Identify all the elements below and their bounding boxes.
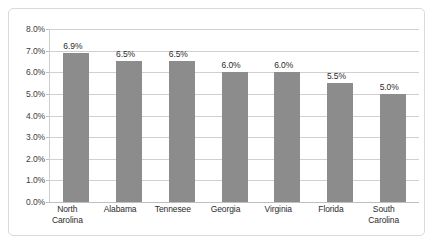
y-tick-mark — [46, 116, 49, 117]
y-tick-label: 4.0% — [26, 111, 45, 121]
bar[interactable]: 5.0% — [380, 94, 406, 202]
x-category-label-line: Alabama — [94, 204, 147, 215]
bar-value-label: 5.5% — [327, 71, 346, 81]
bar[interactable]: 5.5% — [327, 83, 353, 202]
gridline — [49, 202, 419, 203]
x-category-label: NorthCarolina — [41, 204, 94, 226]
bar-slot: 6.0% — [208, 29, 261, 202]
bar-value-label: 5.0% — [380, 82, 399, 92]
y-tick-label: 5.0% — [26, 89, 45, 99]
y-tick-label: 3.0% — [26, 132, 45, 142]
bar-value-label: 6.0% — [222, 60, 241, 70]
x-axis-category-labels: NorthCarolinaAlabamaTenneseeGeorgiaVirgi… — [41, 204, 410, 226]
x-category-label-line: Georgia — [199, 204, 252, 215]
y-tick-mark — [46, 202, 49, 203]
bar-slot: 6.5% — [103, 29, 156, 202]
y-tick-mark — [46, 180, 49, 181]
plot-area: 8.0%7.0%6.0%5.0%4.0%3.0%2.0%1.0%0.0% 6.9… — [49, 29, 419, 202]
x-category-label: Virginia — [252, 204, 305, 226]
bar-slot: 6.5% — [155, 29, 208, 202]
bar-value-label: 6.5% — [169, 49, 188, 59]
bar[interactable]: 6.0% — [222, 72, 248, 202]
x-category-label-line: Tennesee — [146, 204, 199, 215]
x-category-label: Georgia — [199, 204, 252, 226]
y-tick-mark — [46, 29, 49, 30]
bar-value-label: 6.9% — [63, 41, 82, 51]
x-category-label: Florida — [305, 204, 358, 226]
bar-value-label: 6.5% — [116, 49, 135, 59]
x-category-label-line: Florida — [305, 204, 358, 215]
y-tick-mark — [46, 51, 49, 52]
bar-series: 6.9%6.5%6.5%6.0%6.0%5.5%5.0% — [50, 29, 419, 202]
x-category-label: SouthCarolina — [357, 204, 410, 226]
chart-frame: 8.0%7.0%6.0%5.0%4.0%3.0%2.0%1.0%0.0% 6.9… — [8, 8, 425, 236]
x-category-label: Alabama — [94, 204, 147, 226]
y-tick-mark — [46, 94, 49, 95]
x-category-label-line: Carolina — [357, 215, 410, 226]
bar-value-label: 6.0% — [274, 60, 293, 70]
x-category-label-line: Carolina — [41, 215, 94, 226]
bar-slot: 5.5% — [314, 29, 367, 202]
x-category-label-line: Virginia — [252, 204, 305, 215]
bar-slot: 5.0% — [366, 29, 419, 202]
y-tick-mark — [46, 137, 49, 138]
bar-slot: 6.9% — [50, 29, 103, 202]
bar[interactable]: 6.5% — [116, 61, 142, 202]
x-category-label-line: South — [357, 204, 410, 215]
y-tick-label: 6.0% — [26, 67, 45, 77]
bar[interactable]: 6.9% — [63, 53, 89, 202]
y-tick-label: 8.0% — [26, 24, 45, 34]
y-tick-mark — [46, 159, 49, 160]
y-tick-label: 7.0% — [26, 46, 45, 56]
x-category-label-line: North — [41, 204, 94, 215]
y-tick-mark — [46, 72, 49, 73]
y-tick-label: 2.0% — [26, 154, 45, 164]
bar[interactable]: 6.0% — [274, 72, 300, 202]
y-tick-label: 1.0% — [26, 175, 45, 185]
bar[interactable]: 6.5% — [169, 61, 195, 202]
bar-slot: 6.0% — [261, 29, 314, 202]
x-category-label: Tennesee — [146, 204, 199, 226]
